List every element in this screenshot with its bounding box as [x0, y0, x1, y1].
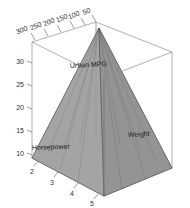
- mpg-tick-10: 10: [16, 150, 24, 157]
- horsepower-tick-50: 50: [82, 6, 92, 15]
- surface-front-left-facet: [32, 28, 104, 196]
- mpg-tick-30: 30: [16, 58, 24, 65]
- horsepower-tick-100: 100: [67, 9, 81, 20]
- mpg-tick-25: 25: [16, 81, 24, 88]
- weight-tick-4: 4: [70, 190, 74, 197]
- mpg-tick-20: 20: [16, 104, 24, 111]
- persp-3d-plot: 300 250 200 150 100 50 30 25 20 15 10: [0, 0, 190, 208]
- horsepower-tick-250: 250: [29, 20, 43, 31]
- horsepower-tick-200: 200: [42, 16, 56, 27]
- persp-svg: 300 250 200 150 100 50 30 25 20 15 10: [0, 0, 190, 208]
- mpg-axis: 30 25 20 15 10: [16, 58, 32, 157]
- fitted-surface: [32, 28, 172, 196]
- horsepower-tick-300: 300: [15, 24, 29, 35]
- mpg-tick-15: 15: [16, 127, 24, 134]
- weight-tick-5: 5: [90, 200, 94, 207]
- weight-tick-2: 2: [30, 168, 34, 175]
- weight-tick-3: 3: [50, 179, 54, 186]
